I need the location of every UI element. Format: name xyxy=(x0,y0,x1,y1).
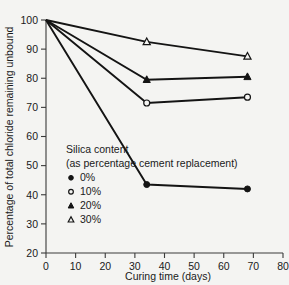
legend-title: Silica content xyxy=(66,143,129,155)
x-axis-title: Curing time (days) xyxy=(125,270,211,282)
x-tick-label: 0 xyxy=(43,260,49,272)
y-tick-label: 30 xyxy=(26,218,38,230)
y-tick-label: 70 xyxy=(26,101,38,113)
y-axis-title: Percentage of total chloride remaining u… xyxy=(3,27,15,248)
marker-filled-circle xyxy=(69,175,74,180)
y-tick-label: 60 xyxy=(26,130,38,142)
y-tick-label: 80 xyxy=(26,72,38,84)
x-tick-label: 20 xyxy=(99,260,111,272)
x-tick-label: 70 xyxy=(248,260,260,272)
legend-item-label: 0% xyxy=(80,171,95,183)
legend-subtitle: (as percentage cement replacement) xyxy=(66,157,238,169)
y-tick-label: 50 xyxy=(26,159,38,171)
y-tick-label: 40 xyxy=(26,189,38,201)
x-tick-label: 80 xyxy=(277,260,289,272)
legend-item-label: 30% xyxy=(80,213,101,225)
x-tick-label: 10 xyxy=(70,260,82,272)
legend-item-label: 20% xyxy=(80,199,101,211)
y-tick-label: 20 xyxy=(26,247,38,259)
x-tick-label: 60 xyxy=(218,260,230,272)
marker-open-circle xyxy=(144,100,150,106)
chart-figure: 2030405060708090100 01020304050607080 Pe… xyxy=(0,0,289,285)
y-tick-label: 100 xyxy=(20,14,38,26)
marker-open-circle xyxy=(69,189,74,194)
chart-canvas: 2030405060708090100 01020304050607080 Pe… xyxy=(0,0,289,285)
marker-filled-circle xyxy=(144,182,150,188)
legend-item-label: 10% xyxy=(80,185,101,197)
y-tick-label: 90 xyxy=(26,43,38,55)
marker-open-circle xyxy=(244,94,250,100)
marker-filled-circle xyxy=(244,186,250,192)
